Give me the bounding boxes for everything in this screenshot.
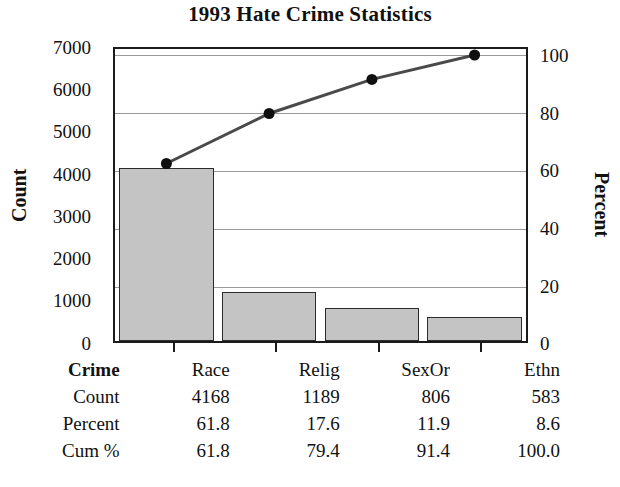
y-axis-title: Count <box>8 145 38 245</box>
cell-cum-2: 79.4 <box>230 437 340 464</box>
cell-crime-1: Race <box>120 356 230 383</box>
row-label-cum-percent: Cum % <box>0 437 120 464</box>
cell-count-1: 4168 <box>120 383 230 410</box>
y-axis-tick-label: 6000 <box>21 80 91 99</box>
y-axis-tick-label: 1000 <box>21 291 91 310</box>
pareto-chart: 1993 Hate Crime Statistics 7000 6000 500… <box>0 0 620 487</box>
row-label-count: Count <box>0 383 120 410</box>
y2-axis-tick-label: 100 <box>540 46 590 65</box>
cell-count-4: 583 <box>450 383 560 410</box>
y2-axis-title: Percent <box>583 150 613 260</box>
cell-crime-4: Ethn <box>450 356 560 383</box>
cell-cum-3: 91.4 <box>340 437 450 464</box>
cell-crime-2: Relig <box>230 356 340 383</box>
y-axis-tick-label: 5000 <box>21 122 91 141</box>
cumulative-line <box>115 49 526 341</box>
table-row: Count 4168 1189 806 583 <box>0 383 560 410</box>
cell-count-3: 806 <box>340 383 450 410</box>
plot-area <box>113 47 528 343</box>
chart-title: 1993 Hate Crime Statistics <box>0 2 620 27</box>
cell-cum-1: 61.8 <box>120 437 230 464</box>
cell-percent-1: 61.8 <box>120 410 230 437</box>
x-axis-tick <box>275 343 277 352</box>
row-label-crime: Crime <box>0 356 120 383</box>
cell-percent-4: 8.6 <box>450 410 560 437</box>
cell-cum-4: 100.0 <box>450 437 560 464</box>
y-axis-tick-label: 0 <box>21 334 91 353</box>
y-axis-tick-label: 7000 <box>21 38 91 57</box>
table-row: Percent 61.8 17.6 11.9 8.6 <box>0 410 560 437</box>
row-label-percent: Percent <box>0 410 120 437</box>
plot-inner <box>115 49 526 341</box>
data-table: Crime Race Relig SexOr Ethn Count 4168 1… <box>0 356 560 464</box>
y2-axis-tick-label: 20 <box>540 277 590 296</box>
x-axis-tick <box>173 343 175 352</box>
cell-count-2: 1189 <box>230 383 340 410</box>
cell-percent-2: 17.6 <box>230 410 340 437</box>
y2-axis-tick-label: 0 <box>540 334 590 353</box>
x-axis-tick <box>480 343 482 352</box>
cell-crime-3: SexOr <box>340 356 450 383</box>
table-row: Crime Race Relig SexOr Ethn <box>0 356 560 383</box>
x-axis-tick <box>378 343 380 352</box>
cell-percent-3: 11.9 <box>340 410 450 437</box>
y-axis-tick-label: 2000 <box>21 249 91 268</box>
y2-axis-tick-label: 80 <box>540 104 590 123</box>
table-row: Cum % 61.8 79.4 91.4 100.0 <box>0 437 560 464</box>
